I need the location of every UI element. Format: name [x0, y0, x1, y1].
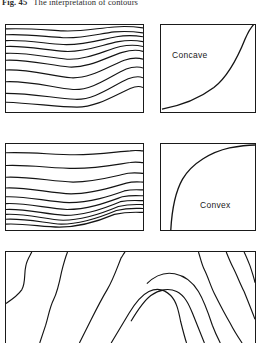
- concave-contour-lines: [6, 25, 143, 112]
- figure-caption-text: The interpretation of contours: [33, 0, 138, 7]
- concave-slope-contour-plan: [5, 24, 144, 113]
- figure-number: Fig. 45: [2, 0, 27, 7]
- figure-caption: Fig. 45The interpretation of contours: [2, 0, 138, 8]
- concave-slope-profile: [160, 24, 256, 113]
- convex-slope-profile: [160, 143, 256, 231]
- spur-valley-contour-lines: [6, 252, 255, 343]
- spur-and-valley-contour-plan: [5, 251, 256, 343]
- concave-profile-curve: [161, 25, 255, 112]
- convex-contour-lines: [6, 144, 143, 230]
- convex-label: Convex: [200, 200, 231, 210]
- concave-label: Concave: [172, 50, 208, 60]
- convex-slope-contour-plan: [5, 143, 144, 231]
- convex-profile-curve: [161, 144, 255, 230]
